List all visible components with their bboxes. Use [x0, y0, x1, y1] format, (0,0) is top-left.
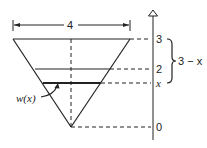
tick-label-x: x [155, 77, 161, 89]
axis-arrow-icon [149, 10, 158, 16]
tank-diagram: 4 3 2 x 0 3 − x w(x) [0, 0, 207, 148]
width-function-label: w(x) [16, 92, 36, 105]
tick-label-2: 2 [156, 63, 162, 75]
brace-label: 3 − x [178, 55, 203, 67]
tick-label-3: 3 [156, 33, 162, 45]
brace-icon [167, 39, 176, 83]
width-label: 4 [67, 19, 73, 31]
curved-arrow-icon [41, 86, 57, 97]
tick-label-0: 0 [156, 121, 162, 133]
